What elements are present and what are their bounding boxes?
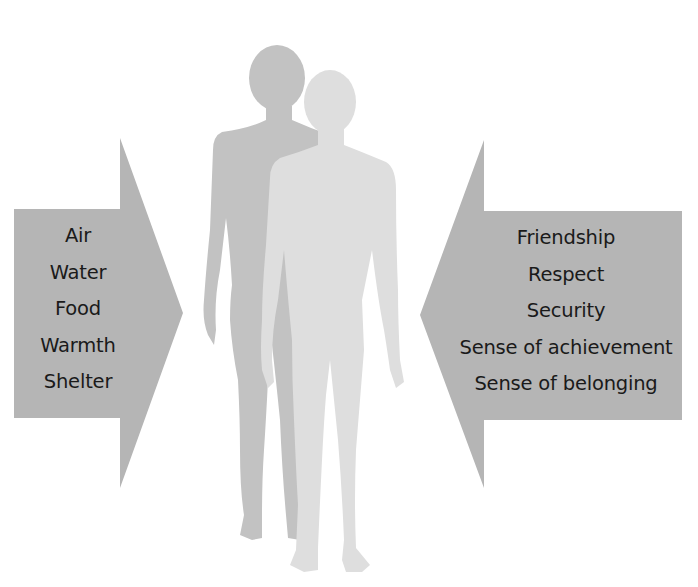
- need-item-air: Air: [22, 218, 134, 255]
- need-item-water: Water: [22, 255, 134, 292]
- physical-needs-list: Air Water Food Warmth Shelter: [22, 218, 134, 401]
- need-item-sense-of-belonging: Sense of belonging: [448, 366, 684, 403]
- need-item-food: Food: [22, 291, 134, 328]
- need-item-sense-of-achievement: Sense of achievement: [448, 330, 684, 367]
- need-item-shelter: Shelter: [22, 364, 134, 401]
- need-item-respect: Respect: [448, 257, 684, 294]
- need-item-warmth: Warmth: [22, 328, 134, 365]
- social-needs-list: Friendship Respect Security Sense of ach…: [448, 220, 684, 403]
- need-item-security: Security: [448, 293, 684, 330]
- need-item-friendship: Friendship: [448, 220, 684, 257]
